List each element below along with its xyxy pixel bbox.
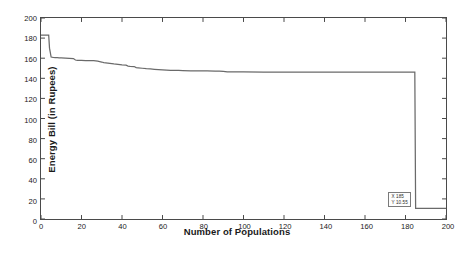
y-tick-label-200: 200 xyxy=(24,14,37,23)
y-tick-label-160: 160 xyxy=(24,54,37,63)
y-tick-label-60: 60 xyxy=(29,156,37,165)
y-tick-label-80: 80 xyxy=(29,135,37,144)
y-tick-label-120: 120 xyxy=(24,95,37,104)
y-tick-label-40: 40 xyxy=(29,176,37,185)
y-tick-label-100: 100 xyxy=(24,115,37,124)
datatip-annotation: X 185 Y 10.55 xyxy=(388,192,410,207)
y-axis-title: Energy Bill (in Rupees) xyxy=(46,20,57,220)
y-tick-label-0: 0 xyxy=(33,217,37,226)
energy-bill-line xyxy=(41,35,446,208)
tick-marks xyxy=(41,18,446,219)
x-axis-title: Number of Populations xyxy=(0,226,474,237)
y-tick-label-20: 20 xyxy=(29,196,37,205)
plot-area: 020406080100120140160180200 020406080100… xyxy=(40,17,447,220)
datatip-y-value: Y 10.55 xyxy=(391,200,407,206)
y-tick-label-140: 140 xyxy=(24,74,37,83)
chart-screenshot: 020406080100120140160180200 020406080100… xyxy=(0,0,474,262)
plot-canvas xyxy=(41,18,446,219)
y-tick-label-180: 180 xyxy=(24,34,37,43)
